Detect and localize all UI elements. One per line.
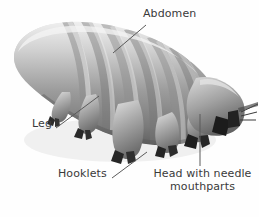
head-claw-2 [228,110,240,128]
label-hooklets: Hooklets [58,168,107,181]
leg-3 [112,100,143,159]
label-head-line-2: mouthparts [150,181,255,194]
label-head-with-needle-mouthparts: Head with needle mouthparts [150,168,255,193]
label-abdomen: Abdomen [143,8,196,21]
label-leg: Leg [32,118,52,131]
label-head-line-1: Head with needle [150,168,255,181]
